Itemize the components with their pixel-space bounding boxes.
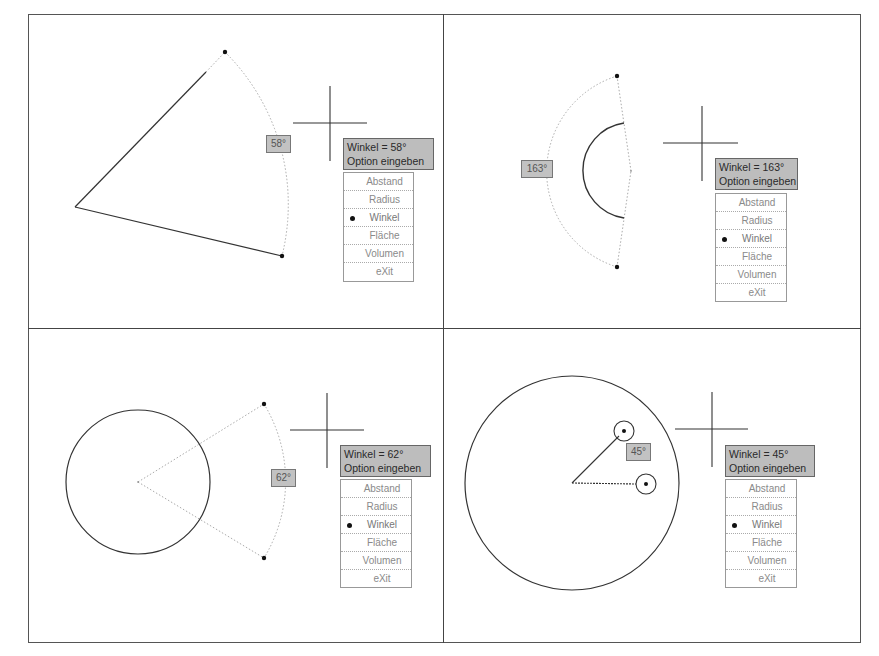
menu-item-label: Radius [369, 194, 400, 205]
menu-item-radius[interactable]: Radius [344, 191, 413, 209]
menu-item-label: Abstand [749, 483, 786, 494]
angle-dimension-label: 62° [271, 469, 296, 487]
menu-item-flaeche[interactable]: Fläche [344, 227, 413, 245]
angle-leg-line [572, 436, 619, 483]
selected-bullet-icon [347, 523, 352, 528]
menu-item-flaeche[interactable]: Fläche [341, 534, 411, 552]
menu-item-label: Fläche [742, 251, 772, 262]
menu-item-abstand[interactable]: Abstand [726, 480, 796, 498]
menu-item-label: eXit [376, 266, 393, 277]
menu-item-abstand[interactable]: Abstand [341, 480, 411, 498]
grip-point[interactable] [262, 556, 266, 560]
center-point [630, 170, 632, 172]
grip-point[interactable] [262, 402, 266, 406]
menu-item-radius[interactable]: Radius [716, 212, 786, 230]
angle-dimension-label: 58° [266, 135, 291, 153]
menu-item-flaeche[interactable]: Fläche [726, 534, 796, 552]
grip-point[interactable] [280, 254, 284, 258]
menu-item-label: eXit [758, 573, 775, 584]
menu-item-abstand[interactable]: Abstand [716, 194, 786, 212]
menu-item-volumen[interactable]: Volumen [344, 245, 413, 263]
angle-arc-dashed [225, 52, 288, 256]
tooltip-prompt: Option eingeben [729, 461, 811, 475]
menu-item-label: Fläche [752, 537, 782, 548]
dashed-extension [206, 52, 225, 72]
option-menu: Abstand Radius Winkel Fläche Volumen eXi… [340, 479, 412, 588]
tooltip-angle-value: Winkel = 58° [347, 140, 430, 154]
menu-item-flaeche[interactable]: Fläche [716, 248, 786, 266]
panel-4-geometry [465, 376, 748, 590]
outer-arc-dashed [547, 76, 617, 267]
panel-2-geometry [547, 74, 738, 269]
angle-dimension-label: 163° [521, 160, 553, 178]
menu-item-abstand[interactable]: Abstand [344, 173, 413, 191]
grip-point[interactable] [622, 429, 626, 433]
menu-item-volumen[interactable]: Volumen [726, 552, 796, 570]
menu-item-label: Abstand [366, 176, 403, 187]
menu-item-label: Fläche [367, 537, 397, 548]
grip-point[interactable] [615, 74, 619, 78]
dynamic-input-tooltip: Winkel = 163° Option eingeben [715, 158, 798, 190]
menu-item-exit[interactable]: eXit [716, 284, 786, 302]
selected-bullet-icon [732, 523, 737, 528]
grip-point[interactable] [223, 50, 227, 54]
angle-leg-line [75, 72, 206, 207]
panel-3-geometry [66, 393, 364, 560]
menu-item-label: Radius [741, 215, 772, 226]
menu-item-label: Abstand [739, 197, 776, 208]
tooltip-prompt: Option eingeben [344, 461, 427, 475]
angle-dimension-label: 45° [626, 443, 651, 461]
tooltip-prompt: Option eingeben [719, 174, 794, 188]
menu-item-label: Winkel [742, 233, 772, 244]
menu-item-label: Winkel [752, 519, 782, 530]
menu-item-exit[interactable]: eXit [341, 570, 411, 588]
menu-item-label: Volumen [363, 555, 402, 566]
menu-item-volumen[interactable]: Volumen [341, 552, 411, 570]
option-menu: Abstand Radius Winkel Fläche Volumen eXi… [343, 172, 414, 282]
dynamic-input-tooltip: Winkel = 62° Option eingeben [340, 445, 431, 477]
menu-item-label: Fläche [369, 230, 399, 241]
dynamic-input-tooltip: Winkel = 58° Option eingeben [343, 138, 434, 170]
tooltip-angle-value: Winkel = 45° [729, 447, 811, 461]
menu-item-label: Winkel [367, 519, 397, 530]
menu-item-winkel[interactable]: Winkel [726, 516, 796, 534]
menu-item-exit[interactable]: eXit [344, 263, 413, 281]
tooltip-angle-value: Winkel = 163° [719, 160, 794, 174]
menu-item-label: Radius [751, 501, 782, 512]
dashed-radius [138, 404, 264, 482]
menu-item-label: Volumen [738, 269, 777, 280]
menu-item-winkel[interactable]: Winkel [344, 209, 413, 227]
grip-point[interactable] [615, 265, 619, 269]
menu-item-radius[interactable]: Radius [726, 498, 796, 516]
selected-bullet-icon [350, 216, 355, 221]
tooltip-angle-value: Winkel = 62° [344, 447, 427, 461]
menu-item-volumen[interactable]: Volumen [716, 266, 786, 284]
menu-item-label: Volumen [365, 248, 404, 259]
menu-item-exit[interactable]: eXit [726, 570, 796, 588]
dynamic-input-tooltip: Winkel = 45° Option eingeben [725, 445, 815, 477]
menu-item-radius[interactable]: Radius [341, 498, 411, 516]
center-point [137, 481, 139, 483]
menu-item-label: Abstand [364, 483, 401, 494]
dashed-radius [617, 171, 631, 267]
menu-item-winkel[interactable]: Winkel [716, 230, 786, 248]
grip-point[interactable] [644, 482, 648, 486]
dashed-radius [138, 482, 264, 558]
tooltip-prompt: Option eingeben [347, 154, 430, 168]
menu-item-label: Winkel [369, 212, 399, 223]
panel-1-geometry [75, 50, 367, 258]
option-menu: Abstand Radius Winkel Fläche Volumen eXi… [725, 479, 797, 588]
option-menu: Abstand Radius Winkel Fläche Volumen eXi… [715, 193, 787, 302]
menu-item-label: Volumen [748, 555, 787, 566]
menu-item-label: Radius [366, 501, 397, 512]
menu-item-label: eXit [373, 573, 390, 584]
angle-leg-line [75, 207, 282, 256]
selected-arc[interactable] [583, 123, 624, 218]
menu-item-label: eXit [748, 287, 765, 298]
selected-bullet-icon [722, 237, 727, 242]
menu-item-winkel[interactable]: Winkel [341, 516, 411, 534]
angle-leg-dashed [572, 483, 636, 484]
